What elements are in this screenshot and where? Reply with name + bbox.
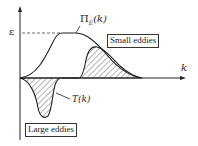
k-axis-label: k [181,63,187,73]
pi-arg: (k) [93,13,107,24]
t-negative-lobe [20,78,62,117]
pi-e-label: ΠE(k) [80,14,107,26]
t-positive-lobe [79,47,142,78]
pi-leader-line [76,26,80,33]
pi-symbol: Π [80,13,89,24]
large-eddies-box: Large eddies [25,123,77,137]
t-leader-line [56,93,70,99]
epsilon-label: ε [9,27,14,37]
small-eddies-box: Small eddies [107,34,159,48]
y-axis [18,6,22,140]
t-k-label: T(k) [72,95,90,104]
